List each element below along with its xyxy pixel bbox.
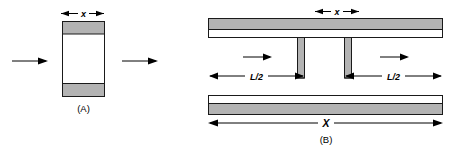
panel-b: x <box>208 5 443 145</box>
panel-b-right-length-label: L/2 <box>387 72 400 82</box>
panel-a-x-dimension: x <box>61 7 104 20</box>
panel-b-caption: (B) <box>320 134 333 145</box>
panel-b-left-length-dimension: L/2 <box>209 69 304 83</box>
panel-b-x-dimension: x <box>315 5 359 18</box>
panel-b-left-length-label: L/2 <box>250 72 263 82</box>
panel-a-bottom-band <box>63 84 105 97</box>
panel-a-outlet-arrow <box>122 57 158 64</box>
panel-a-inlet-arrow <box>12 57 48 64</box>
arrowhead-left-icon <box>61 11 69 17</box>
panel-b-left-flow-arrow <box>243 54 272 61</box>
arrowhead-right-icon <box>433 73 442 80</box>
arrowhead-right-icon <box>433 119 443 126</box>
panel-a-width-label: x <box>80 9 87 19</box>
arrowhead-right-icon <box>351 9 359 15</box>
arrowhead-right-icon <box>263 54 272 61</box>
panel-b-right-flow-arrow <box>380 54 409 61</box>
arrowhead-right-icon <box>148 57 158 64</box>
arrowhead-right-icon <box>400 54 409 61</box>
panel-b-top-slab-band <box>209 19 443 30</box>
arrowhead-left-icon <box>209 73 218 80</box>
panel-a-caption: (A) <box>77 103 90 114</box>
panel-b-gap-width-label: x <box>333 7 340 17</box>
arrowhead-left-icon <box>315 9 323 15</box>
arrowhead-right-icon <box>96 11 104 17</box>
arrowhead-left-icon <box>208 119 218 126</box>
panel-a-top-band <box>63 22 105 35</box>
arrowhead-right-icon <box>38 57 48 64</box>
panel-b-total-width-dimension: X <box>208 115 443 130</box>
diagram-svg: x (A) <box>0 0 454 149</box>
panel-b-right-wall-band <box>345 38 352 78</box>
panel-b-right-length-dimension: L/2 <box>345 69 442 83</box>
figure-container: x (A) <box>0 0 454 149</box>
panel-a: x (A) <box>12 7 158 114</box>
panel-b-total-width-label: X <box>321 117 330 129</box>
panel-b-bottom-slab-band <box>209 104 443 115</box>
panel-b-left-wall-band <box>298 38 305 78</box>
